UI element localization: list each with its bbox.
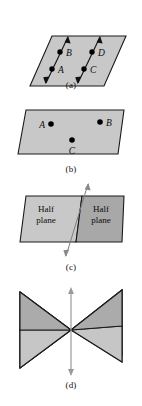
point-c-label: C bbox=[90, 65, 97, 75]
point-b-label: B bbox=[66, 48, 72, 58]
half-plane-left-label-line2: plane bbox=[36, 215, 56, 225]
point-a-dot bbox=[48, 121, 54, 127]
figure-root: A B C D (a) A B C (b) bbox=[0, 0, 142, 406]
point-b-label: B bbox=[106, 118, 112, 128]
panel-d bbox=[0, 286, 142, 378]
point-d-dot bbox=[89, 49, 94, 54]
half-plane-right-label-line1: Half bbox=[93, 204, 109, 214]
point-b-dot bbox=[97, 119, 103, 125]
point-b-dot bbox=[57, 49, 62, 54]
point-a-dot bbox=[49, 66, 54, 71]
panel-c-drawing: Half plane Half plane bbox=[0, 182, 142, 260]
panel-b: A B C bbox=[0, 104, 142, 164]
point-c-dot bbox=[81, 66, 86, 71]
point-c-dot bbox=[69, 137, 75, 143]
panel-c: Half plane Half plane bbox=[0, 182, 142, 260]
half-plane-left-label-line1: Half bbox=[38, 204, 54, 214]
caption-a: (a) bbox=[0, 80, 142, 90]
point-d-label: D bbox=[97, 48, 105, 58]
caption-d: (d) bbox=[0, 380, 142, 390]
arrowhead-axis-bottom bbox=[68, 369, 74, 376]
caption-c: (c) bbox=[0, 262, 142, 272]
half-plane-right-label-line2: plane bbox=[91, 215, 111, 225]
caption-b: (b) bbox=[0, 164, 142, 174]
point-a-label: A bbox=[38, 120, 45, 130]
panel-b-drawing: A B C bbox=[0, 104, 142, 164]
point-a-label: A bbox=[57, 65, 64, 75]
panel-d-drawing bbox=[0, 286, 142, 378]
point-c-label: C bbox=[69, 146, 76, 156]
arrowhead-axis-top bbox=[68, 287, 74, 294]
